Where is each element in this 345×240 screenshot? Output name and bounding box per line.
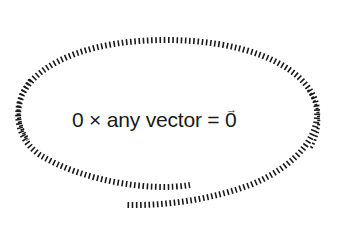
vector-arrow-icon: → <box>226 104 237 115</box>
formula-text: 0 × any vector = →0 <box>72 108 237 132</box>
zero-vector: →0 <box>225 108 236 132</box>
formula-prefix: 0 × any vector = <box>72 108 225 131</box>
